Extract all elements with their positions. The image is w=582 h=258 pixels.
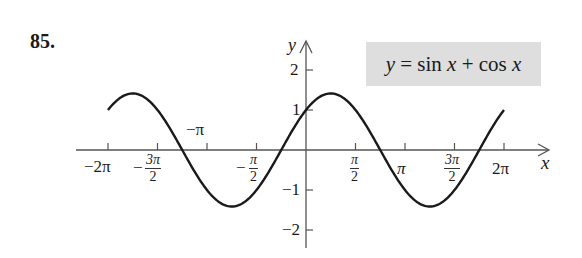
y-tick-label: −2 (282, 221, 300, 238)
x-tick-label: π (397, 160, 406, 177)
x-tick-label: 2π (492, 160, 509, 177)
legend-y: y (386, 52, 395, 77)
legend-x: x (512, 52, 521, 77)
y-axis-label: y (288, 36, 296, 54)
x-tick-fraction: π 2 (350, 153, 359, 184)
x-tick-label: −π (186, 121, 204, 138)
legend-cos: cos (479, 52, 507, 77)
x-tick-sign: − (236, 158, 246, 178)
y-tick-label: 2 (290, 61, 299, 78)
x-tick-sign: − (133, 158, 143, 178)
x-tick-label: −2π (84, 158, 111, 175)
legend-sin: sin (417, 52, 442, 77)
x-tick-fraction: π 2 (249, 153, 258, 184)
legend-plus: + (462, 52, 474, 77)
y-tick-label: 1 (292, 101, 301, 118)
y-tick-label: −1 (282, 181, 300, 198)
equation-label-box: y = sin x + cos x (366, 42, 541, 86)
x-axis-label: x (541, 153, 549, 172)
legend-x: x (447, 52, 456, 77)
x-tick-fraction: 3π 2 (145, 153, 161, 184)
legend-equals: = (400, 52, 412, 77)
x-tick-fraction: 3π 2 (444, 153, 460, 184)
